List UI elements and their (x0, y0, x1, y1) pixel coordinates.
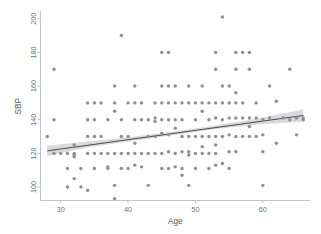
data-point (160, 118, 163, 121)
data-point (248, 135, 251, 138)
data-point (194, 167, 197, 170)
data-point (221, 15, 224, 18)
y-axis-title: SBP (14, 98, 23, 115)
data-point (214, 51, 217, 54)
data-point (201, 145, 204, 148)
data-point (261, 118, 264, 121)
data-point (153, 101, 156, 104)
data-point (140, 101, 143, 104)
data-point (194, 152, 197, 155)
data-point (187, 135, 190, 138)
data-point (288, 118, 291, 121)
data-point (133, 118, 136, 121)
data-point (180, 101, 183, 104)
data-point (207, 135, 210, 138)
data-point (254, 116, 257, 119)
data-point (167, 118, 170, 121)
data-point (113, 184, 116, 187)
data-point (187, 150, 190, 153)
data-point (52, 118, 55, 121)
data-point (221, 162, 224, 165)
plot-canvas: 30405060 100120140160180200 Age SBP (0, 0, 321, 234)
y-tick-label: 100 (29, 181, 38, 193)
data-point (201, 152, 204, 155)
data-point (160, 84, 163, 87)
data-point (86, 189, 89, 192)
data-point (180, 135, 183, 138)
data-point (194, 135, 197, 138)
data-point (174, 152, 177, 155)
data-point (160, 131, 163, 134)
data-point (174, 101, 177, 104)
data-point (72, 177, 75, 180)
data-point (153, 116, 156, 119)
data-point (180, 118, 183, 121)
y-tick-label: 200 (29, 13, 38, 25)
data-point (160, 167, 163, 170)
data-point (234, 150, 237, 153)
data-point (106, 152, 109, 155)
data-point (187, 184, 190, 187)
data-point (133, 142, 136, 145)
data-point (234, 68, 237, 71)
data-point (234, 116, 237, 119)
data-point (66, 152, 69, 155)
data-point (227, 84, 230, 87)
data-point (140, 118, 143, 121)
data-point (174, 84, 177, 87)
data-point (113, 152, 116, 155)
y-tick-label: 120 (29, 147, 38, 159)
data-point (254, 101, 257, 104)
x-tick-label: 60 (259, 205, 267, 214)
data-point (234, 91, 237, 94)
data-point (261, 184, 264, 187)
y-tick-label: 180 (29, 46, 38, 58)
scatter-plot-figure: 30405060 100120140160180200 Age SBP (0, 0, 321, 234)
data-point (194, 101, 197, 104)
data-point (268, 116, 271, 119)
data-point (254, 135, 257, 138)
data-point (167, 51, 170, 54)
data-point (86, 118, 89, 121)
y-axis-ticks: 100120140160180200 (29, 13, 40, 193)
data-point (268, 84, 271, 87)
data-point (147, 184, 150, 187)
data-point (261, 133, 264, 136)
data-point (99, 135, 102, 138)
data-point (221, 101, 224, 104)
data-point (187, 84, 190, 87)
x-tick-label: 30 (57, 205, 65, 214)
y-tick-label: 160 (29, 80, 38, 92)
data-point (113, 84, 116, 87)
data-point (302, 118, 305, 121)
data-point (167, 101, 170, 104)
data-point (120, 118, 123, 121)
data-point (234, 51, 237, 54)
data-point (126, 135, 129, 138)
data-point (214, 163, 217, 166)
data-point (59, 152, 62, 155)
data-point (113, 197, 116, 200)
axis-lines (41, 11, 311, 201)
axis-spine (41, 11, 311, 201)
data-point (241, 51, 244, 54)
data-point (113, 101, 116, 104)
data-point (160, 51, 163, 54)
data-point (227, 133, 230, 136)
data-point (93, 101, 96, 104)
data-point (106, 118, 109, 121)
data-point (66, 167, 69, 170)
data-point (221, 84, 224, 87)
data-point (241, 116, 244, 119)
data-point (295, 133, 298, 136)
data-point (46, 135, 49, 138)
data-point (180, 174, 183, 177)
data-point (214, 152, 217, 155)
data-point (52, 68, 55, 71)
data-point (79, 167, 82, 170)
data-point (241, 135, 244, 138)
data-point (248, 116, 251, 119)
data-point (174, 118, 177, 121)
data-point (214, 101, 217, 104)
data-point (214, 135, 217, 138)
